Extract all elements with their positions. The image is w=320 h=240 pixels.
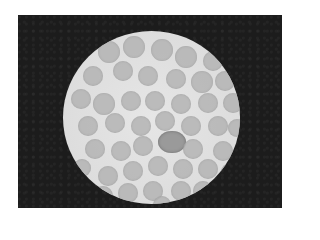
cell bbox=[83, 66, 103, 86]
cell bbox=[123, 161, 143, 181]
cell bbox=[208, 116, 228, 136]
cell bbox=[153, 196, 171, 204]
cell bbox=[111, 141, 131, 161]
cell bbox=[78, 116, 98, 136]
cell bbox=[118, 183, 138, 203]
cell bbox=[131, 116, 151, 136]
cell bbox=[171, 94, 191, 114]
cell bbox=[166, 69, 186, 89]
cell bbox=[148, 156, 168, 176]
cell bbox=[98, 166, 118, 186]
cell bbox=[151, 39, 173, 61]
cell bbox=[121, 91, 141, 111]
cell bbox=[105, 113, 125, 133]
cell bbox=[171, 181, 191, 201]
microscope-field bbox=[63, 31, 240, 204]
cell bbox=[193, 181, 213, 201]
cell bbox=[228, 119, 240, 137]
cell bbox=[155, 111, 175, 131]
cell bbox=[123, 36, 145, 58]
cell bbox=[198, 159, 218, 179]
cell bbox=[183, 139, 203, 159]
cell bbox=[221, 163, 239, 181]
cell bbox=[93, 186, 113, 204]
cell bbox=[113, 61, 133, 81]
cell bbox=[133, 136, 153, 156]
cell bbox=[85, 139, 105, 159]
cell bbox=[175, 46, 197, 68]
cell bbox=[173, 159, 193, 179]
cell bbox=[213, 141, 233, 161]
cell bbox=[198, 93, 218, 113]
cell bbox=[145, 91, 165, 111]
cell bbox=[158, 131, 186, 153]
cell bbox=[71, 89, 91, 109]
cell bbox=[191, 71, 213, 93]
cell bbox=[223, 93, 240, 113]
cell bbox=[73, 159, 91, 177]
cell bbox=[138, 66, 158, 86]
cell bbox=[181, 116, 201, 136]
cell bbox=[203, 51, 223, 71]
cell bbox=[98, 41, 120, 63]
cell bbox=[215, 71, 235, 91]
cell bbox=[93, 93, 115, 115]
